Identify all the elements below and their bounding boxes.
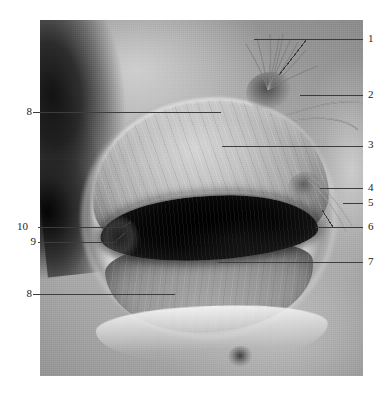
- label-number-8b: 8: [27, 288, 33, 299]
- suture-thread-highlight-8: [246, 44, 268, 90]
- suture-thread-highlight-2: [268, 40, 290, 90]
- label-number-2: 2: [368, 89, 374, 100]
- curved-thread-1: [287, 102, 363, 132]
- suture-thread-group: [40, 20, 363, 376]
- curved-thread-2: [293, 118, 358, 130]
- label-number-7: 7: [368, 256, 374, 267]
- lower-thread-highlight-1: [308, 180, 346, 232]
- label-number-9: 9: [31, 236, 37, 247]
- label-number-1: 1: [368, 33, 374, 44]
- suture-thread-9: [268, 66, 318, 90]
- suture-thread-8: [246, 44, 268, 90]
- lower-thread-highlight-2: [312, 178, 352, 226]
- lower-thread-1: [308, 180, 346, 232]
- label-number-10: 10: [17, 221, 28, 232]
- label-number-5: 5: [368, 197, 374, 208]
- label-number-6: 6: [368, 221, 374, 232]
- label-number-3: 3: [368, 139, 374, 150]
- lower-thread-2: [312, 178, 352, 226]
- label-number-8a: 8: [27, 106, 33, 117]
- suture-thread-highlight-4: [268, 50, 306, 90]
- figure-root: 123456781098: [0, 0, 390, 394]
- dissection-photograph: [40, 20, 363, 376]
- curved-thread-highlight-1: [287, 102, 363, 132]
- suture-thread-highlight-3: [268, 42, 298, 90]
- suture-thread-highlight-9: [268, 66, 318, 90]
- label-number-4: 4: [368, 182, 374, 193]
